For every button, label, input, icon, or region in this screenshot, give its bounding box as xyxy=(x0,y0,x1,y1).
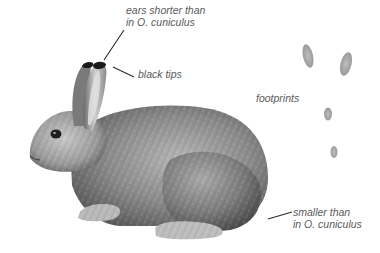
footprints xyxy=(301,43,355,158)
annotation-size-line1: smaller than xyxy=(293,206,362,218)
annotation-size: smaller than in O. cuniculus xyxy=(293,206,362,230)
annotation-tips-text: black tips xyxy=(138,68,182,80)
annotation-footprints-text: footprints xyxy=(256,92,299,104)
annotation-footprints: footprints xyxy=(256,92,299,104)
annotation-ears: ears shorter than in O. cuniculus xyxy=(126,4,205,28)
footprint-front-2 xyxy=(331,146,338,158)
illustration: ears shorter than in O. cuniculus black … xyxy=(0,0,380,253)
annotation-tips: black tips xyxy=(138,68,182,80)
annotation-ears-line2: in O. cuniculus xyxy=(126,16,205,28)
annotation-ears-line1: ears shorter than xyxy=(126,4,205,16)
annotation-size-line2: in O. cuniculus xyxy=(293,218,362,230)
leader-tips xyxy=(113,67,134,77)
leader-ears xyxy=(104,30,124,60)
ear-tip-left xyxy=(82,62,93,68)
footprint-front-1 xyxy=(324,108,332,121)
eye-icon xyxy=(51,130,62,139)
leader-size xyxy=(268,212,292,219)
footprint-hind-left xyxy=(301,43,316,69)
footprint-hind-right xyxy=(338,51,354,77)
